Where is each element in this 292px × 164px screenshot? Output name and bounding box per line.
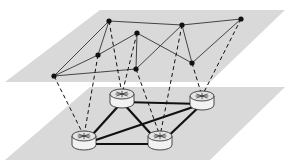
router-icon: [148, 131, 172, 150]
router-icon: [190, 91, 214, 110]
virtual-node: [134, 30, 139, 35]
virtual-node: [133, 66, 138, 71]
virtual-node: [51, 73, 56, 78]
virtual-node: [179, 22, 184, 27]
virtual-node: [189, 60, 194, 65]
network-overlay-diagram: [0, 0, 292, 164]
router-icon: [110, 89, 134, 108]
virtual-layer-plane: [5, 10, 285, 82]
top-plane-shape: [5, 10, 285, 82]
virtual-node: [238, 16, 243, 21]
router-icon: [72, 131, 96, 150]
virtual-node: [95, 52, 100, 57]
virtual-node: [106, 18, 111, 23]
